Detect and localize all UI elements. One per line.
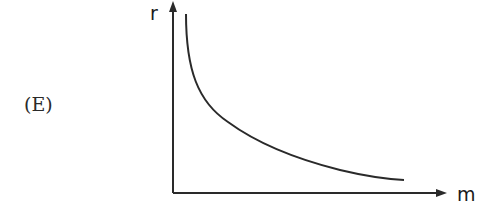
decreasing-curve — [186, 14, 404, 180]
x-axis-arrow-icon — [436, 189, 447, 197]
y-axis-arrow-icon — [169, 1, 177, 12]
x-axis-label: m — [457, 183, 476, 205]
graph: r m — [0, 0, 486, 211]
y-axis-label: r — [150, 2, 158, 24]
